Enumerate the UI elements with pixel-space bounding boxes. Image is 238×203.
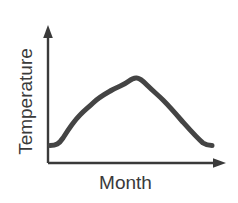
temperature-curve (50, 78, 212, 146)
y-axis-arrowhead-icon (43, 25, 53, 38)
x-axis-arrowhead-icon (213, 158, 226, 168)
x-axis-title: Month (48, 172, 203, 194)
temperature-vs-month-chart: Temperature Month (0, 0, 238, 203)
y-axis-title: Temperature (13, 0, 39, 203)
